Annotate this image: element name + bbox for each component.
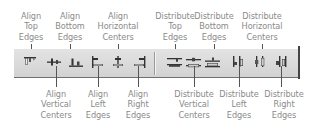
distribute-bottom-edges-button[interactable] [204,55,222,69]
callout-text: Horizontal [88,21,148,31]
distribute-bottom-edges-icon [204,55,222,69]
align-bottom-edges-icon [68,55,86,69]
callout-text: Distribute [254,89,314,99]
align-left-edges-icon [90,55,108,69]
callout-text: Distribute [232,11,292,21]
toolbar-right-border [298,46,300,79]
align-vertical-centers-icon [46,55,64,69]
distribute-top-edges-icon [166,55,184,69]
align-top-edges-button[interactable] [23,55,41,69]
distribute-horizontal-centers-button[interactable] [251,55,269,69]
leader-line [194,66,195,87]
callout-text: Centers [232,32,292,42]
align-horizontal-centers-icon [109,55,127,69]
align-left-edges-button[interactable] [90,55,108,69]
leader-line [239,66,240,87]
callout-text: Edges [254,110,314,120]
leader-line [98,66,99,87]
distribute-top-edges-button[interactable] [166,55,184,69]
callout-text: Align [108,89,168,99]
callout-text: Horizontal [232,21,292,31]
align-horizontal-centers-button[interactable] [109,55,127,69]
callout-align-right-edges: Align Right Edges [108,89,168,120]
distribute-horizontal-centers-icon [251,55,269,69]
align-right-edges-button[interactable] [130,55,148,69]
align-vertical-centers-button[interactable] [46,55,64,69]
align-bottom-edges-button[interactable] [68,55,86,69]
callout-text: Edges [108,110,168,120]
leader-line [56,66,57,87]
callout-text: Right [254,99,314,109]
callout-distribute-right-edges: Distribute Right Edges [254,89,314,120]
align-top-edges-icon [23,55,41,69]
callout-text: Align [88,11,148,21]
callout-text: Centers [88,32,148,42]
callout-text: Right [108,99,168,109]
leader-line [138,66,139,87]
toolbar-separator [154,52,155,75]
align-right-edges-icon [130,55,148,69]
callout-distribute-horizontal-centers: Distribute Horizontal Centers [232,11,292,42]
callout-align-horizontal-centers: Align Horizontal Centers [88,11,148,42]
leader-line [281,66,282,87]
